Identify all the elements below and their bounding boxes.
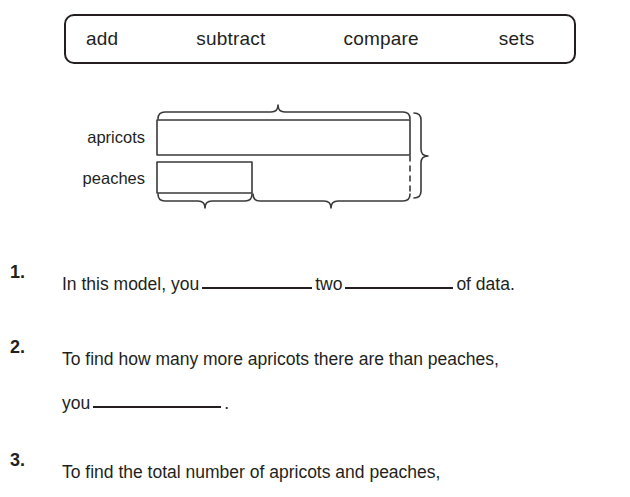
question-1-text-part2: two — [315, 274, 342, 294]
question-2-text-line1: To find how many more apricots there are… — [62, 337, 630, 381]
peaches-amount-brace — [158, 194, 252, 208]
question-2-text-part1: you — [62, 393, 90, 413]
question-2-text-part2: . — [224, 393, 229, 413]
question-2-text-line2: you. — [62, 381, 229, 425]
peaches-bar — [157, 162, 252, 193]
question-2-blank-1[interactable] — [93, 406, 221, 408]
difference-brace — [253, 194, 410, 208]
word-bank-words: add subtract compare sets — [66, 16, 574, 62]
total-apricots-brace — [158, 105, 410, 119]
word-bank-item-add[interactable]: add — [86, 28, 118, 50]
question-1-number: 1. — [10, 262, 25, 283]
question-1-text-part1: In this model, you — [62, 274, 199, 294]
bar-model-diagram: apricots peaches — [0, 90, 460, 215]
total-combined-brace — [414, 113, 428, 198]
question-1-blank-1[interactable] — [202, 287, 312, 289]
apricots-bar — [157, 120, 410, 155]
question-1-blank-2[interactable] — [345, 287, 453, 289]
peaches-bar-label: peaches — [83, 169, 145, 187]
question-3-number: 3. — [10, 450, 25, 471]
question-1-text: In this model, youtwoof data. — [62, 262, 630, 306]
question-2-number: 2. — [10, 337, 25, 358]
word-bank-item-compare[interactable]: compare — [344, 28, 419, 50]
word-bank: add subtract compare sets — [64, 14, 576, 64]
apricots-bar-label: apricots — [87, 128, 145, 146]
word-bank-item-subtract[interactable]: subtract — [196, 28, 265, 50]
word-bank-item-sets[interactable]: sets — [499, 28, 535, 50]
question-3-text-line1: To find the total number of apricots and… — [62, 450, 630, 494]
question-1-text-part3: of data. — [456, 274, 514, 294]
